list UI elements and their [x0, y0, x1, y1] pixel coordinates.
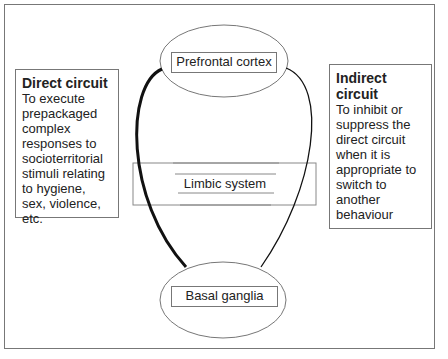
direct-circuit-box: Direct circuit To execute prepackaged co… — [15, 69, 119, 218]
direct-circuit-title: Direct circuit — [22, 75, 112, 91]
indirect-circuit-description: To inhibit or suppress the direct circui… — [336, 102, 425, 222]
prefrontal-cortex-label: Prefrontal cortex — [171, 52, 277, 73]
indirect-circuit-title: Indirect circuit — [336, 70, 425, 102]
direct-circuit-description: To execute prepackaged complex responses… — [22, 91, 112, 226]
basal-ganglia-label: Basal ganglia — [171, 286, 278, 307]
indirect-circuit-box: Indirect circuit To inhibit or suppress … — [329, 64, 432, 229]
limbic-system-label: Limbic system — [170, 176, 280, 192]
